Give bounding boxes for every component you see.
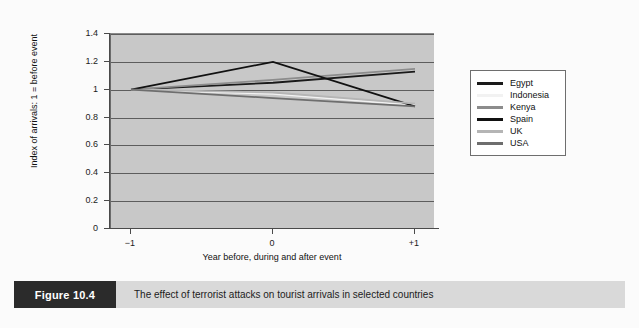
x-axis-tick-label: 0 xyxy=(252,238,292,248)
x-axis-tick-label: +1 xyxy=(394,238,434,248)
y-axis-tick-label: 0.6 xyxy=(58,139,98,149)
x-axis-tick xyxy=(414,228,415,234)
legend-label: Indonesia xyxy=(510,89,549,101)
legend-swatch-uk xyxy=(477,130,503,133)
y-axis-tick-label: 0.2 xyxy=(58,195,98,205)
legend-item-egypt: Egypt xyxy=(477,77,559,89)
series-line-kenya xyxy=(131,69,415,90)
figure-page: 00.20.40.60.811.21.4 −10+1 Year before, … xyxy=(0,0,639,328)
legend-swatch-spain xyxy=(477,118,503,121)
x-axis-tick-label: −1 xyxy=(110,238,150,248)
y-axis-tick-label: 0.8 xyxy=(58,112,98,122)
legend-label: USA xyxy=(510,137,529,149)
y-axis-tick xyxy=(104,144,110,145)
legend-label: Egypt xyxy=(510,77,533,89)
y-axis-title: Index of arrivals: 1 = before event xyxy=(29,21,39,181)
figure-number-tag: Figure 10.4 xyxy=(14,281,116,308)
legend-swatch-indonesia xyxy=(477,94,503,97)
y-axis-tick xyxy=(104,228,110,229)
legend-item-kenya: Kenya xyxy=(477,101,559,113)
y-axis-tick-label: 1 xyxy=(58,84,98,94)
x-axis-tick xyxy=(272,228,273,234)
y-axis-tick xyxy=(104,33,110,34)
y-axis-tick xyxy=(104,61,110,62)
y-axis-tick-label: 1.4 xyxy=(58,28,98,38)
x-axis-tick xyxy=(130,228,131,234)
legend-label: Spain xyxy=(510,113,533,125)
y-axis-tick xyxy=(104,117,110,118)
legend-swatch-usa xyxy=(477,142,503,145)
legend-swatch-egypt xyxy=(477,82,503,85)
y-axis-tick xyxy=(104,172,110,173)
figure-caption-text: The effect of terrorist attacks on touri… xyxy=(116,289,433,300)
y-axis-tick-label: 1.2 xyxy=(58,56,98,66)
legend: EgyptIndonesiaKenyaSpainUKUSA xyxy=(470,70,566,156)
series-lines xyxy=(111,34,435,229)
legend-item-uk: UK xyxy=(477,125,559,137)
y-axis-tick-label: 0 xyxy=(58,223,98,233)
x-axis-title: Year before, during and after event xyxy=(110,252,434,262)
legend-label: UK xyxy=(510,125,523,137)
legend-item-usa: USA xyxy=(477,137,559,149)
legend-label: Kenya xyxy=(510,101,536,113)
y-axis-tick xyxy=(104,89,110,90)
y-axis-tick xyxy=(104,200,110,201)
legend-item-spain: Spain xyxy=(477,113,559,125)
legend-swatch-kenya xyxy=(477,106,503,109)
plot-area xyxy=(110,33,434,228)
y-axis-tick-label: 0.4 xyxy=(58,167,98,177)
caption-bar: Figure 10.4 The effect of terrorist atta… xyxy=(14,281,625,308)
legend-item-indonesia: Indonesia xyxy=(477,89,559,101)
chart-figure: 00.20.40.60.811.21.4 −10+1 Year before, … xyxy=(0,0,639,270)
